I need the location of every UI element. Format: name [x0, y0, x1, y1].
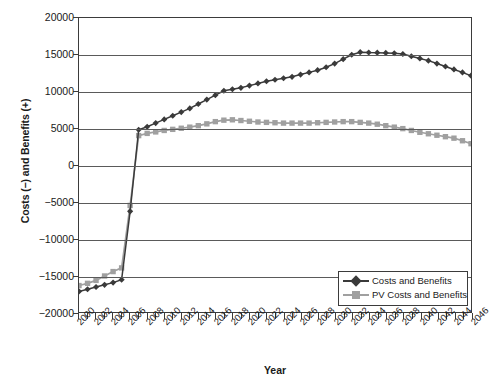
data-point-marker — [306, 69, 312, 75]
data-point-marker — [306, 120, 311, 125]
data-point-marker — [297, 72, 303, 78]
y-tick-mark — [73, 54, 78, 55]
data-point-marker — [144, 131, 149, 136]
series-line — [79, 52, 471, 291]
y-tick-label: 15000 — [10, 49, 74, 59]
data-point-marker — [315, 67, 321, 73]
data-point-marker — [400, 51, 406, 57]
y-tick-mark — [73, 165, 78, 166]
legend-label-costs-and-benefits: Costs and Benefits — [369, 275, 452, 287]
data-point-marker — [127, 208, 133, 214]
data-point-marker — [187, 105, 193, 111]
data-point-marker — [263, 78, 269, 84]
data-point-marker — [196, 123, 201, 128]
gridline — [79, 166, 471, 167]
data-point-marker — [101, 282, 107, 288]
legend-item-pv-costs-and-benefits: PV Costs and Benefits — [343, 288, 463, 302]
y-tick-label: 20000 — [10, 12, 74, 22]
data-point-marker — [255, 119, 260, 124]
data-point-marker — [272, 77, 278, 83]
y-tick-mark — [73, 91, 78, 92]
data-point-marker — [221, 117, 226, 122]
y-tick-label: −15000 — [10, 271, 74, 281]
data-point-marker — [110, 280, 116, 286]
data-point-marker — [459, 69, 465, 75]
data-point-marker — [247, 119, 252, 124]
data-point-marker — [153, 129, 158, 134]
data-point-marker — [417, 55, 423, 61]
data-point-marker — [460, 138, 465, 143]
y-tick-label: 0 — [10, 160, 74, 170]
data-point-marker — [272, 120, 277, 125]
data-point-marker — [426, 131, 431, 136]
chart-legend: Costs and Benefits PV Costs and Benefits — [338, 271, 468, 306]
y-tick-mark — [73, 17, 78, 18]
legend-diamond-marker-icon — [343, 275, 369, 287]
data-point-marker — [451, 135, 456, 140]
data-point-marker — [153, 120, 159, 126]
gridline — [79, 92, 471, 93]
data-point-marker — [323, 64, 329, 70]
x-axis-tick-labels: 2000200220042006200820102012201420162018… — [78, 320, 472, 364]
data-point-marker — [161, 116, 167, 122]
x-axis-title: Year — [78, 364, 472, 376]
data-point-marker — [281, 120, 286, 125]
data-point-marker — [332, 119, 337, 124]
data-point-marker — [213, 119, 218, 124]
data-point-marker — [79, 283, 82, 288]
data-point-marker — [451, 66, 457, 72]
data-point-marker — [93, 278, 98, 283]
data-point-marker — [340, 56, 346, 62]
x-tick-label: 2046 — [469, 306, 490, 327]
data-point-marker — [85, 281, 90, 286]
data-point-marker — [358, 120, 363, 125]
data-series-layer — [79, 18, 471, 312]
data-point-marker — [315, 120, 320, 125]
data-point-marker — [195, 101, 201, 107]
gridline — [79, 240, 471, 241]
data-point-marker — [170, 113, 176, 119]
data-point-marker — [383, 123, 388, 128]
data-point-marker — [264, 120, 269, 125]
y-tick-mark — [73, 313, 78, 314]
data-point-marker — [93, 284, 99, 290]
gridline — [79, 129, 471, 130]
y-tick-label: −10000 — [10, 234, 74, 244]
data-point-marker — [434, 133, 439, 138]
data-point-marker — [349, 119, 354, 124]
data-point-marker — [246, 83, 252, 89]
y-tick-mark — [73, 276, 78, 277]
y-tick-label: −20000 — [10, 308, 74, 318]
data-point-marker — [79, 288, 82, 294]
y-axis-tick-labels: 20000150001000050000−5000−10000−15000−20… — [8, 0, 74, 384]
data-point-marker — [238, 118, 243, 123]
data-point-marker — [434, 60, 440, 66]
data-point-marker — [84, 286, 90, 292]
y-tick-mark — [73, 239, 78, 240]
gridline — [79, 55, 471, 56]
data-point-marker — [204, 97, 210, 103]
data-point-marker — [443, 134, 448, 139]
y-tick-label: 5000 — [10, 123, 74, 133]
y-tick-label: −5000 — [10, 197, 74, 207]
data-point-marker — [323, 120, 328, 125]
data-point-marker — [280, 75, 286, 81]
data-point-marker — [425, 58, 431, 64]
data-point-marker — [238, 85, 244, 91]
data-point-marker — [204, 121, 209, 126]
legend-item-costs-and-benefits: Costs and Benefits — [343, 274, 463, 288]
data-point-marker — [468, 141, 471, 146]
data-point-marker — [417, 130, 422, 135]
plot-area — [78, 17, 472, 313]
data-point-marker — [178, 109, 184, 115]
y-tick-label: 10000 — [10, 86, 74, 96]
legend-square-marker-icon — [343, 289, 369, 301]
cost-benefit-line-chart: Costs (−) and Benefits (+) 2000015000100… — [0, 0, 492, 384]
data-point-marker — [255, 80, 261, 86]
data-point-marker — [332, 60, 338, 66]
y-tick-mark — [73, 128, 78, 129]
data-point-marker — [212, 92, 218, 98]
data-point-marker — [468, 73, 471, 79]
gridline — [79, 203, 471, 204]
legend-label-pv-costs-and-benefits: PV Costs and Benefits — [369, 289, 467, 301]
